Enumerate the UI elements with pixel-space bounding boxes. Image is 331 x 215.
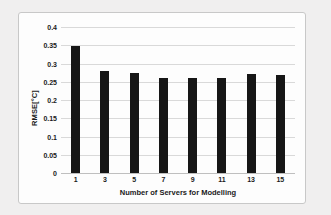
x-axis-tick-label: 11: [207, 176, 236, 183]
x-axis-tick-label: 1: [61, 176, 90, 183]
bar[interactable]: [188, 78, 197, 173]
y-axis-tick-label: 0.35: [43, 42, 57, 49]
y-axis-tick-label: 0.1: [47, 133, 57, 140]
x-axis-tick-label: 7: [149, 176, 178, 183]
bar-slot: [266, 27, 295, 173]
x-axis-tick-label: 13: [237, 176, 266, 183]
bar-series: [61, 27, 295, 173]
bar-slot: [207, 27, 236, 173]
x-axis-tick-label: 9: [178, 176, 207, 183]
y-axis-tick-label: 0.25: [43, 78, 57, 85]
bar[interactable]: [217, 78, 226, 173]
bar-slot: [237, 27, 266, 173]
y-axis-tick-label: 0.05: [43, 151, 57, 158]
bar[interactable]: [247, 74, 256, 173]
plot-area: [61, 27, 295, 173]
chart-plot-wrapper: RMSE[°C] 0.40.350.30.250.20.150.10.050 1…: [19, 13, 305, 203]
y-axis-tick-label: 0.4: [47, 24, 57, 31]
y-axis-tick-label: 0: [53, 170, 57, 177]
bar[interactable]: [71, 46, 80, 173]
bar[interactable]: [130, 73, 139, 173]
bar[interactable]: [276, 75, 285, 173]
x-axis-tick-labels: 13579111315: [61, 176, 295, 183]
y-axis-tick-label: 0.15: [43, 115, 57, 122]
bar-slot: [61, 27, 90, 173]
y-axis-tick-labels: 0.40.350.30.250.20.150.10.050: [29, 27, 59, 173]
axis-baseline: [61, 173, 295, 174]
y-axis-tick-label: 0.3: [47, 60, 57, 67]
bar-slot: [149, 27, 178, 173]
x-axis-title: Number of Servers for Modelling: [61, 188, 295, 197]
x-axis-tick-label: 5: [120, 176, 149, 183]
bar[interactable]: [100, 71, 109, 173]
bar[interactable]: [159, 78, 168, 173]
bar-slot: [90, 27, 119, 173]
y-axis-tick-label: 0.2: [47, 97, 57, 104]
x-axis-tick-label: 15: [266, 176, 295, 183]
bar-slot: [120, 27, 149, 173]
bar-slot: [178, 27, 207, 173]
x-axis-tick-label: 3: [90, 176, 119, 183]
chart-container: RMSE[°C] 0.40.350.30.250.20.150.10.050 1…: [18, 12, 306, 204]
